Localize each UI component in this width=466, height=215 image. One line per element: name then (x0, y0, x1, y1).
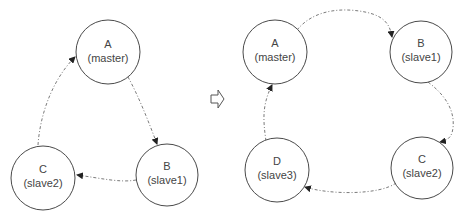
replication-ring-diagram: A (master) B (slave1) C (slave2) A (mast… (0, 0, 466, 215)
node-letter: B (417, 37, 424, 49)
node-a: A (master) (243, 20, 307, 84)
node-a: A (master) (76, 20, 140, 84)
node-role: (master) (255, 51, 296, 63)
node-role: (master) (88, 52, 129, 64)
edge-b-to-c (428, 82, 453, 142)
node-c: C (slave2) (391, 137, 453, 199)
node-role: (slave2) (402, 167, 441, 179)
node-letter: A (104, 38, 112, 50)
node-role: (slave1) (401, 51, 440, 63)
node-b: B (slave1) (136, 144, 198, 206)
node-b: B (slave1) (390, 21, 452, 83)
node-letter: A (271, 37, 279, 49)
node-c: C (slave2) (11, 146, 75, 210)
hollow-right-arrow-icon (211, 90, 224, 108)
diagram-before: A (master) B (slave1) C (slave2) (11, 20, 198, 210)
edge-c-to-d (305, 183, 396, 193)
edge-a-to-b (297, 10, 392, 37)
node-letter: C (418, 153, 426, 165)
node-letter: C (39, 163, 47, 175)
node-d: D (slave3) (245, 138, 309, 202)
edge-c-to-a (38, 57, 75, 145)
edge-a-to-b (128, 77, 157, 144)
edge-b-to-c (77, 175, 136, 181)
edge-d-to-a (264, 85, 272, 141)
node-role: (slave1) (147, 174, 186, 186)
node-letter: D (273, 155, 281, 167)
diagram-after: A (master) B (slave1) C (slave2) D (slav… (243, 10, 453, 202)
node-role: (slave3) (257, 169, 296, 181)
node-letter: B (163, 160, 170, 172)
node-role: (slave2) (23, 177, 62, 189)
